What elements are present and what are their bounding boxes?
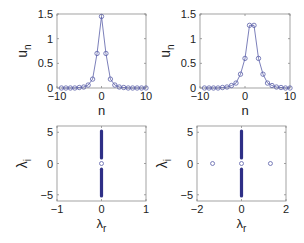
subplot-top-right: −1001000.511.5nun (157, 8, 296, 118)
x-tick-label: −2 (191, 203, 204, 215)
x-tick-label: 2 (283, 203, 289, 215)
y-tick-label: 0 (47, 82, 53, 94)
x-tick-label: 0 (98, 203, 104, 215)
y-tick-label: 1.5 (181, 8, 196, 20)
x-tick-label: 1 (143, 203, 149, 215)
y-axis-label: λi (14, 159, 33, 168)
y-tick-label: −5 (180, 189, 193, 201)
x-tick-label: 0 (242, 90, 248, 102)
y-tick-label: 0 (190, 82, 196, 94)
subplot-bottom-left: −101−505λrλi (14, 126, 149, 234)
y-tick-label: 1.5 (38, 8, 53, 20)
x-tick-label: 0 (238, 203, 244, 215)
axes-frame (200, 14, 290, 88)
x-axis-label: n (98, 103, 105, 118)
y-tick-label: 0.5 (38, 57, 53, 69)
x-axis-label: λr (237, 216, 248, 234)
axes-frame (57, 14, 146, 88)
eigenvalue-marker (240, 162, 244, 166)
y-tick-label: 5 (187, 126, 193, 138)
y-axis-label: un (157, 44, 176, 57)
subplot-bottom-right: −202−505λrλi (154, 126, 289, 234)
y-tick-label: 5 (47, 126, 53, 138)
y-axis-label: un (14, 44, 33, 57)
x-tick-label: 10 (284, 90, 296, 102)
y-tick-label: 1 (190, 33, 196, 45)
x-tick-label: −1 (51, 203, 64, 215)
x-axis-label: n (241, 103, 248, 118)
x-axis-label: λr (97, 216, 108, 234)
subplot-top-left: −1001000.511.5nun (14, 8, 152, 118)
y-tick-label: 0 (187, 158, 193, 170)
eigenvalue-marker (268, 162, 272, 166)
eigenvalue-marker (211, 162, 215, 166)
y-axis-label: λi (154, 159, 173, 168)
figure-canvas: −1001000.511.5nun−1001000.511.5nun−101−5… (0, 0, 304, 243)
y-tick-label: 0 (47, 158, 53, 170)
y-tick-label: 0.5 (181, 57, 196, 69)
y-tick-label: −5 (40, 189, 53, 201)
x-tick-label: 0 (98, 90, 104, 102)
eigenvalue-marker (100, 162, 104, 166)
x-tick-label: 10 (140, 90, 152, 102)
figure: −1001000.511.5nun−1001000.511.5nun−101−5… (0, 0, 304, 243)
y-tick-label: 1 (47, 33, 53, 45)
